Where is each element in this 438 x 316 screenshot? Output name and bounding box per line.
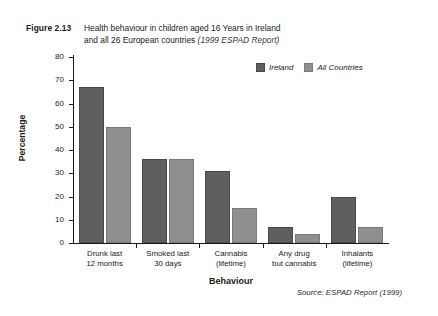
y-axis-tick	[69, 57, 74, 58]
legend-label-ireland: Ireland	[269, 63, 293, 72]
x-axis-tick	[263, 243, 264, 248]
bar-all-countries-5	[358, 227, 383, 243]
y-axis-tick-label: 40	[24, 146, 64, 154]
y-axis-tick-label: 10	[24, 216, 64, 224]
y-axis-tick-label: 80	[24, 53, 64, 61]
bar-ireland-5	[331, 197, 356, 244]
source-note: Source: ESPAD Report (1999)	[297, 288, 402, 297]
y-axis-tick	[69, 80, 74, 81]
category-label-line-1: Inhalants	[320, 249, 395, 259]
category-label-line-2: (lifetime)	[320, 259, 395, 269]
legend-swatch-icon-all-countries	[304, 63, 313, 72]
bar-chart: Ireland All Countries 01020304050607080 …	[0, 0, 438, 316]
bar-ireland-4	[268, 227, 293, 243]
bar-all-countries-2	[169, 159, 194, 243]
bar-all-countries-4	[295, 234, 320, 243]
y-axis-tick	[69, 173, 74, 174]
x-axis-tick	[136, 243, 137, 248]
bar-all-countries-3	[232, 208, 257, 243]
bar-ireland-2	[142, 159, 167, 243]
x-axis-line	[73, 243, 389, 244]
y-axis-tick-label: 0	[24, 239, 64, 247]
bar-ireland-1	[79, 87, 104, 243]
x-axis-tick	[326, 243, 327, 248]
y-axis-tick	[69, 150, 74, 151]
legend-label-all-countries: All Countries	[317, 63, 362, 72]
legend-item-all-countries: All Countries	[304, 63, 362, 72]
y-axis-tick	[69, 220, 74, 221]
category-label: Inhalants(lifetime)	[320, 249, 395, 268]
x-axis-tick	[199, 243, 200, 248]
bar-all-countries-1	[106, 127, 131, 243]
y-axis-tick	[69, 243, 74, 244]
y-axis-tick-label: 60	[24, 100, 64, 108]
chart-legend: Ireland All Countries	[256, 63, 363, 72]
x-axis-title: Behaviour	[73, 276, 389, 286]
y-axis-tick-label: 70	[24, 76, 64, 84]
y-axis-tick-label: 20	[24, 193, 64, 201]
y-axis-tick	[69, 127, 74, 128]
bar-ireland-3	[205, 171, 230, 243]
legend-swatch-icon-ireland	[256, 63, 265, 72]
y-axis-tick-label: 30	[24, 169, 64, 177]
y-axis-tick	[69, 197, 74, 198]
y-axis-title: Percentage	[17, 83, 27, 193]
y-axis-tick-label: 50	[24, 123, 64, 131]
legend-item-ireland: Ireland	[256, 63, 293, 72]
y-axis-tick	[69, 104, 74, 105]
